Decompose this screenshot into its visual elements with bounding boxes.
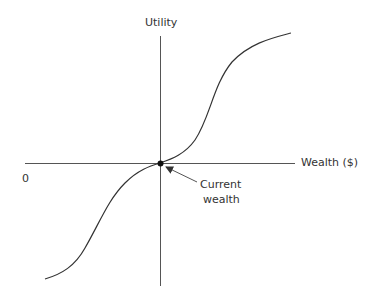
current-wealth-point <box>158 161 164 167</box>
utility-curve-diagram <box>0 0 367 300</box>
origin-label: 0 <box>22 172 29 185</box>
s-curve <box>45 33 291 279</box>
annotation-arrow <box>166 167 197 182</box>
annotation-label-line2: wealth <box>203 193 240 206</box>
x-axis-label: Wealth ($) <box>301 156 358 169</box>
annotation-label-line1: Current <box>200 178 241 191</box>
y-axis-label: Utility <box>145 16 177 29</box>
